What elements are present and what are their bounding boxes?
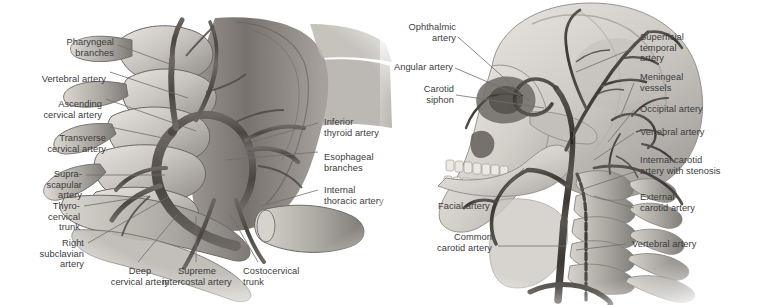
label-vertebral-artery-upper: Vertebral artery [640, 127, 736, 138]
label-supreme-intercostal-artery: Supreme intercostal artery [140, 266, 254, 287]
label-angular-artery: Angular artery [380, 62, 453, 73]
label-costocervical-trunk: Costocervical trunk [243, 266, 327, 287]
label-ophthalmic-artery: Ophthalmic artery [382, 22, 456, 43]
label-transverse-cervical-artery: Transverse cervical artery [6, 133, 106, 154]
panel-cervical-dissection: Pharyngeal branches Vertebral artery Asc… [0, 0, 400, 305]
label-carotid-siphon: Carotid siphon [382, 84, 454, 105]
label-superficial-temporal-artery: Superficial temporal artery [640, 32, 718, 64]
panel-skull-carotid: Ophthalmic artery Angular artery Carotid… [380, 0, 760, 305]
label-pharyngeal-branches: Pharyngeal branches [6, 37, 114, 58]
label-vertebral-artery: Vertebral artery [6, 74, 106, 85]
label-meningeal-vessels: Meningeal vessels [640, 72, 716, 93]
anatomy-figure: Pharyngeal branches Vertebral artery Asc… [0, 0, 760, 305]
label-ascending-cervical-artery: Ascending cervical artery [6, 99, 102, 120]
label-facial-artery: Facial artery [438, 201, 518, 212]
label-external-carotid-artery: External carotid artery [640, 192, 726, 213]
label-thyrocervical-trunk: Thyro- cervical trunk [8, 201, 80, 233]
label-suprascapular-artery: Supra- scapular artery [8, 169, 82, 201]
label-common-carotid-artery: Common carotid artery [408, 232, 492, 253]
label-internal-carotid-artery-stenosis: Internal carotid artery with stenosis [640, 155, 758, 176]
label-vertebral-artery-lower: Vertebral artery [632, 239, 732, 250]
label-right-subclavian-artery: Right subclavian artery [8, 238, 84, 270]
label-occipital-artery: Occipital artery [640, 104, 734, 115]
